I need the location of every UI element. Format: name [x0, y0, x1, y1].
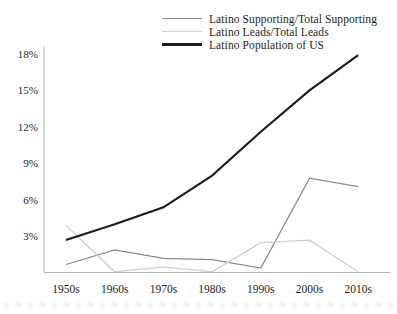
- y-tick-label: 9%: [6, 157, 38, 169]
- line-chart-figure: Latino Supporting/Total Supporting Latin…: [0, 0, 397, 314]
- x-tick-label: 1980s: [190, 283, 234, 296]
- y-tick-label: 6%: [6, 194, 38, 206]
- y-tick-label: 3%: [6, 230, 38, 242]
- x-tick-label: 2010s: [336, 283, 380, 296]
- x-tick-label: 1960s: [93, 283, 137, 296]
- x-tick-label: 2000s: [288, 283, 332, 296]
- cropped-caption-ghost: [4, 302, 393, 307]
- series-line-2: [66, 55, 358, 240]
- x-tick-label: 1970s: [141, 283, 185, 296]
- plot-area: [0, 0, 397, 314]
- series-line-0: [66, 178, 358, 268]
- x-tick-label: 1950s: [44, 283, 88, 296]
- y-tick-label: 12%: [6, 121, 38, 133]
- series-line-1: [66, 226, 358, 272]
- plot-lines: [66, 55, 358, 272]
- y-tick-label: 18%: [6, 48, 38, 60]
- x-tick-label: 1990s: [239, 283, 283, 296]
- y-tick-label: 15%: [6, 84, 38, 96]
